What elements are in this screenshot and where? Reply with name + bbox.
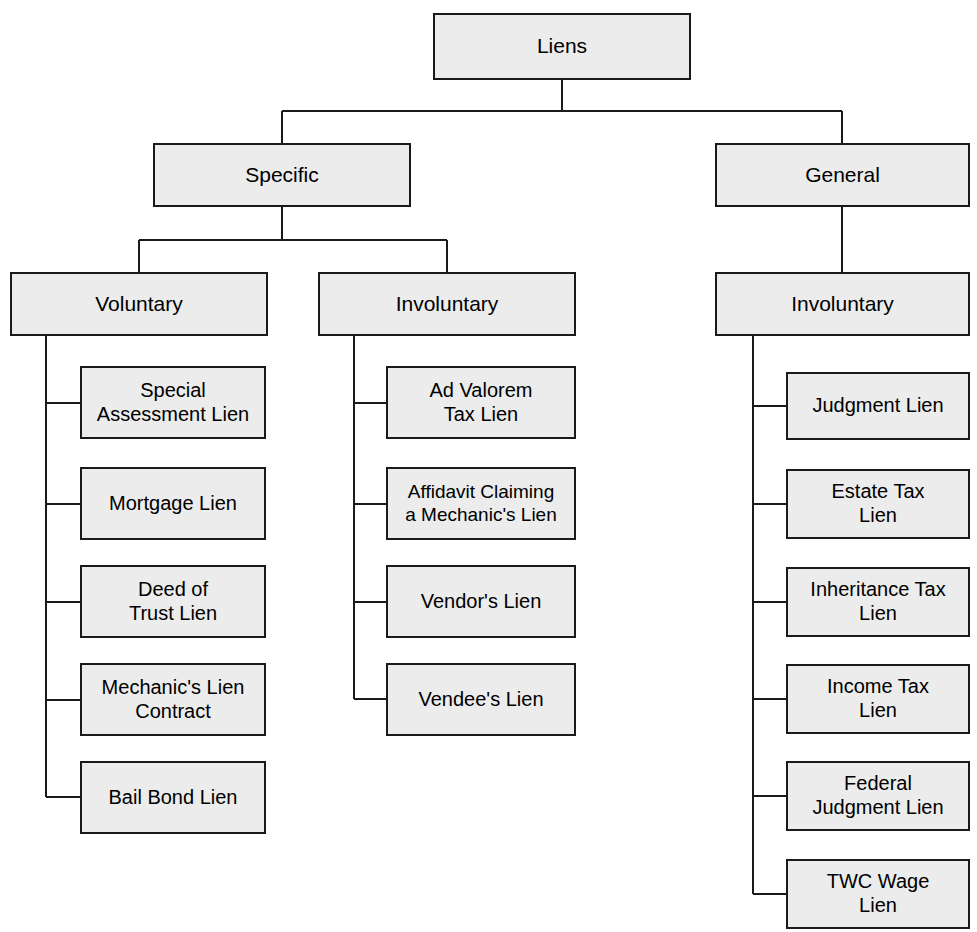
lien-classification-diagram: Liens Specific General Voluntary Involun… [0, 0, 977, 932]
node-general[interactable]: General [715, 143, 970, 207]
node-mechanics-lien-contract[interactable]: Mechanic's Lien Contract [80, 663, 266, 736]
node-mortgage-lien[interactable]: Mortgage Lien [80, 467, 266, 540]
node-estate-tax-lien[interactable]: Estate Tax Lien [786, 469, 970, 539]
node-affidavit-claiming-a-mechanics-lien[interactable]: Affidavit Claiming a Mechanic's Lien [386, 467, 576, 540]
node-judgment-lien[interactable]: Judgment Lien [786, 372, 970, 440]
node-inheritance-tax-lien[interactable]: Inheritance Tax Lien [786, 567, 970, 637]
node-twc-wage-lien[interactable]: TWC Wage Lien [786, 859, 970, 929]
node-bail-bond-lien[interactable]: Bail Bond Lien [80, 761, 266, 834]
node-general-involuntary[interactable]: Involuntary [715, 272, 970, 336]
node-specific-voluntary[interactable]: Voluntary [10, 272, 268, 336]
node-specific-involuntary[interactable]: Involuntary [318, 272, 576, 336]
node-ad-valorem-tax-lien[interactable]: Ad Valorem Tax Lien [386, 366, 576, 439]
node-vendees-lien[interactable]: Vendee's Lien [386, 663, 576, 736]
node-liens[interactable]: Liens [433, 13, 691, 80]
node-vendors-lien[interactable]: Vendor's Lien [386, 565, 576, 638]
node-specific[interactable]: Specific [153, 143, 411, 207]
node-special-assessment-lien[interactable]: Special Assessment Lien [80, 366, 266, 439]
node-deed-of-trust-lien[interactable]: Deed of Trust Lien [80, 565, 266, 638]
node-federal-judgment-lien[interactable]: Federal Judgment Lien [786, 761, 970, 831]
node-income-tax-lien[interactable]: Income Tax Lien [786, 664, 970, 734]
